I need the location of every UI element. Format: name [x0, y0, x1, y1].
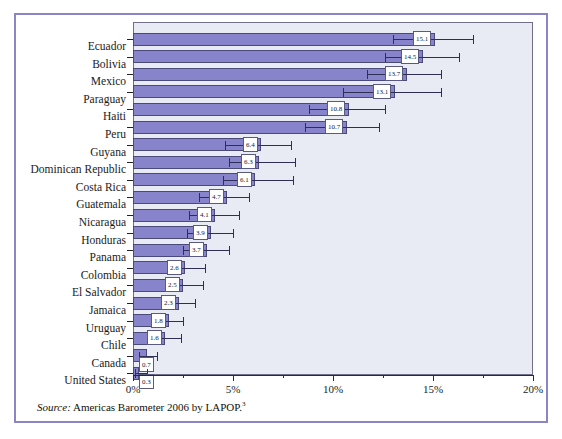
y-axis-label: Peru	[105, 125, 126, 143]
error-bar-cap	[385, 105, 386, 114]
y-axis-label: Costa Rica	[76, 178, 126, 196]
error-bar-cap	[181, 334, 182, 343]
x-axis-tick-minor	[383, 375, 384, 378]
bar-value-label: 6.4	[243, 137, 258, 152]
error-bar-cap	[233, 229, 234, 238]
y-axis-label: United States	[64, 371, 126, 389]
y-axis-label: Haiti	[103, 107, 126, 125]
bar-row: 2.3	[133, 294, 533, 312]
error-bar	[385, 57, 459, 58]
source-footnote-marker: 3	[242, 400, 246, 408]
x-axis-tick-major	[433, 375, 434, 381]
error-bar-cap	[291, 141, 292, 150]
y-axis-tick	[127, 338, 133, 339]
bar	[133, 50, 423, 63]
error-bar-cap	[459, 53, 460, 62]
error-bar-cap	[183, 317, 184, 326]
bar-row: 6.3	[133, 153, 533, 171]
y-axis-tick	[127, 162, 133, 163]
bar-row: 10.8	[133, 100, 533, 118]
y-axis-label: Canada	[92, 354, 126, 372]
y-axis-tick	[127, 303, 133, 304]
x-axis-tick-major	[133, 375, 134, 381]
y-axis-ticks	[133, 22, 134, 375]
source-note: Source: Americas Barometer 2006 by LAPOP…	[37, 400, 245, 413]
y-axis-label: Paraguay	[83, 90, 126, 108]
error-bar	[223, 180, 293, 181]
bar	[133, 33, 435, 46]
x-axis-label: 0%	[126, 383, 141, 395]
bar-value-label: 13.1	[373, 84, 391, 99]
x-axis-label: 20%	[523, 383, 543, 395]
error-bar-cap	[195, 299, 196, 308]
y-axis-tick	[127, 39, 133, 40]
bars-layer: 15.114.513.713.110.810.76.46.36.14.74.13…	[133, 22, 533, 375]
bar-value-label: 6.1	[237, 172, 252, 187]
error-bar-cap	[223, 176, 224, 185]
error-bar-cap	[187, 229, 188, 238]
error-bar-cap	[441, 88, 442, 97]
bar-row: 2.5	[133, 276, 533, 294]
y-axis-label: Jamaica	[89, 301, 126, 319]
bar-value-label: 1.6	[147, 330, 162, 345]
error-bar-cap	[205, 264, 206, 273]
x-axis-tick-major	[333, 375, 334, 381]
y-axis-tick	[127, 233, 133, 234]
error-bar-cap	[229, 246, 230, 255]
bar-value-label: 15.1	[413, 31, 431, 46]
bar-value-label: 14.5	[401, 49, 419, 64]
error-bar-cap	[203, 281, 204, 290]
error-bar-cap	[379, 123, 380, 132]
error-bar-cap	[473, 35, 474, 44]
error-bar-cap	[385, 53, 386, 62]
x-axis-tick-major	[533, 375, 534, 381]
bar	[133, 68, 407, 81]
x-axis-tick-major	[233, 375, 234, 381]
y-axis-label: Mexico	[91, 72, 126, 90]
error-bar-cap	[441, 70, 442, 79]
bar-row: 13.7	[133, 65, 533, 83]
error-bar	[225, 145, 291, 146]
error-bar-cap	[189, 211, 190, 220]
bar-row: 1.8	[133, 312, 533, 330]
error-bar-cap	[309, 105, 310, 114]
error-bar-cap	[367, 70, 368, 79]
bar-value-label: 1.8	[151, 313, 166, 328]
y-axis-labels: EcuadorBoliviaMexicoParaguayHaitiPeruGuy…	[21, 29, 126, 382]
error-bar	[393, 39, 473, 40]
error-bar-cap	[305, 123, 306, 132]
error-bar-cap	[229, 158, 230, 167]
y-axis-label: Bolivia	[92, 55, 126, 73]
y-axis-tick	[127, 57, 133, 58]
x-axis-tick-minor	[283, 375, 284, 378]
bar-value-label: 2.6	[167, 260, 182, 275]
error-bar	[367, 74, 441, 75]
y-axis-label: Colombia	[81, 266, 126, 284]
x-axis-tick-minor	[183, 375, 184, 378]
error-bar-cap	[199, 193, 200, 202]
error-bar-cap	[343, 88, 344, 97]
y-axis-label: El Salvador	[72, 283, 126, 301]
y-axis-label: Guatemala	[76, 195, 126, 213]
error-bar-cap	[135, 369, 136, 378]
y-axis-label: Dominican Republic	[31, 160, 127, 178]
bar-row: 6.4	[133, 136, 533, 154]
y-axis-label: Honduras	[81, 231, 126, 249]
bar-value-label: 3.7	[189, 242, 204, 257]
bar-row: 3.9	[133, 224, 533, 242]
figure-frame: 15.114.513.713.110.810.76.46.36.14.74.13…	[14, 13, 548, 423]
bar-row: 4.7	[133, 188, 533, 206]
bar-value-label: 4.1	[197, 207, 212, 222]
bar-value-label: 4.7	[209, 189, 224, 204]
x-axis-tick-minor	[483, 375, 484, 378]
y-axis-label: Nicaragua	[79, 213, 126, 231]
error-bar-cap	[293, 176, 294, 185]
bar-value-label: 2.3	[161, 295, 176, 310]
y-axis-tick	[127, 321, 133, 322]
bar-value-label: 10.7	[325, 119, 343, 134]
source-prefix: Source:	[37, 401, 71, 413]
bar-row: 10.7	[133, 118, 533, 136]
y-axis-tick	[127, 109, 133, 110]
bar-value-label: 6.3	[241, 154, 256, 169]
y-axis-tick	[127, 197, 133, 198]
